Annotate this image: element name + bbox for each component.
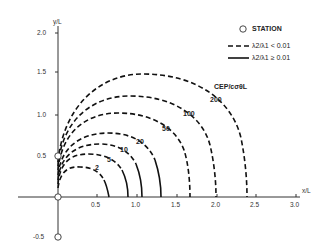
station-marker [55,234,61,240]
legend-station-icon [240,26,246,32]
svg-text:1.5: 1.5 [171,201,180,208]
station-marker [55,153,61,159]
legend-station-label: STATION [252,25,282,32]
svg-text:1.0: 1.0 [37,111,46,118]
x-ticks: 0.5 1.0 1.5 2.0 2.5 3.0 [91,194,299,208]
svg-text:5: 5 [107,156,111,163]
svg-text:2.0: 2.0 [37,29,46,36]
svg-text:0.5: 0.5 [37,152,46,159]
svg-text:3.0: 3.0 [290,201,299,208]
svg-text:20: 20 [136,138,144,145]
contour-chart: y/L x/L 2.0 1.5 1.0 0.5 -0.5 0.5 1.0 1.5… [0,0,331,249]
svg-text:2.0: 2.0 [211,201,220,208]
svg-text:0.5: 0.5 [91,201,100,208]
svg-text:2: 2 [95,164,99,171]
legend-solid-label: λ2/λ1 ≥ 0.01 [252,54,290,61]
svg-text:2.5: 2.5 [250,201,259,208]
contours [58,74,247,197]
station-marker [55,194,61,200]
svg-text:10: 10 [120,146,128,153]
svg-text:1.0: 1.0 [131,201,140,208]
svg-text:200: 200 [210,96,222,103]
y-axis-label: y/L [53,18,62,26]
legend-dashed-label: λ2/λ1 < 0.01 [252,42,290,49]
contour-title: CEP/cσθL [214,83,248,90]
svg-text:-0.5: -0.5 [33,233,45,240]
svg-text:50: 50 [162,125,170,132]
svg-text:100: 100 [183,110,195,117]
y-ticks: 2.0 1.5 1.0 0.5 -0.5 [33,29,58,240]
svg-text:1.5: 1.5 [37,68,46,75]
x-axis-label: x/L [302,187,311,194]
legend: STATION λ2/λ1 < 0.01 λ2/λ1 ≥ 0.01 [228,25,290,61]
